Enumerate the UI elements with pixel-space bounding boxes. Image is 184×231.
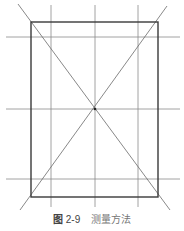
figure-caption: 图 2-9 测量方法	[0, 211, 184, 226]
center-point	[94, 108, 97, 111]
measurement-diagram	[0, 0, 184, 210]
figure-title: 测量方法	[91, 214, 131, 225]
figure-number: 2-9	[66, 214, 80, 225]
figure-label: 图	[53, 214, 63, 225]
